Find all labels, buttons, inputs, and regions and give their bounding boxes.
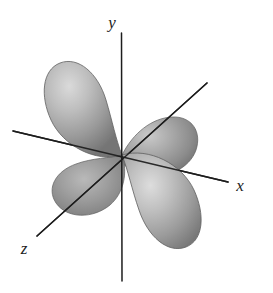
orbital-diagram-canvas: y x z: [0, 0, 273, 293]
axis-label-z: z: [20, 239, 28, 258]
axis-label-y: y: [106, 13, 116, 32]
axis-label-x: x: [235, 176, 244, 195]
orbital-figure: y x z: [0, 0, 273, 293]
